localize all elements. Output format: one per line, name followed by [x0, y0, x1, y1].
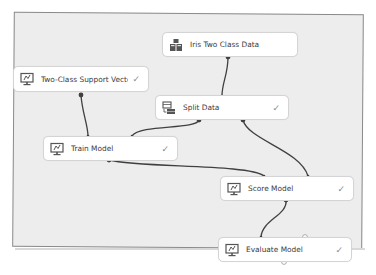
module-label: Iris Two Class Data — [190, 40, 285, 49]
model-icon — [50, 142, 64, 156]
split-data-icon — [162, 101, 176, 115]
module-evaluate-model[interactable]: Evaluate Model ✓ — [218, 237, 352, 262]
module-label: Evaluate Model — [246, 245, 331, 254]
module-label: Train Model — [71, 144, 157, 153]
module-two-class-svm[interactable]: Two-Class Support Vector M... ✓ — [13, 66, 149, 92]
module-score-model[interactable]: Score Model ✓ — [220, 176, 354, 201]
status-check-icon: ✓ — [132, 74, 140, 84]
model-icon — [227, 182, 241, 196]
module-iris-two-class-data[interactable]: Iris Two Class Data — [162, 32, 298, 57]
module-label: Score Model — [248, 184, 333, 193]
status-check-icon: ✓ — [161, 144, 169, 154]
model-icon — [225, 243, 239, 257]
dataset-icon — [169, 38, 183, 52]
status-check-icon: ✓ — [337, 184, 345, 194]
module-split-data[interactable]: Split Data ✓ — [155, 95, 289, 120]
module-train-model[interactable]: Train Model ✓ — [43, 136, 178, 161]
model-icon — [20, 72, 34, 86]
status-check-icon: ✓ — [335, 245, 343, 255]
module-label: Two-Class Support Vector M... — [41, 75, 128, 84]
status-check-icon: ✓ — [272, 103, 280, 113]
module-label: Split Data — [183, 103, 268, 112]
